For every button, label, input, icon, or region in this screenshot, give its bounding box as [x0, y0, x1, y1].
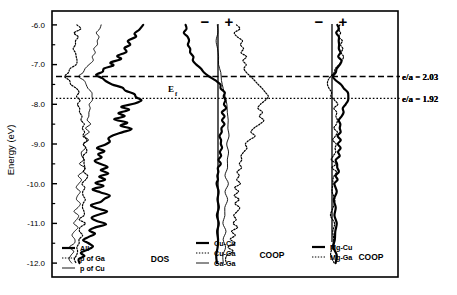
y-tick-label: -10.0 — [27, 180, 46, 189]
y-tick-label: -9.0 — [31, 140, 45, 149]
legend-label-cu-ga: Cu-Ga — [214, 249, 237, 258]
panel-title-dos: DOS — [151, 254, 170, 264]
y-axis-label: Energy (eV) — [5, 125, 16, 176]
sign-coop1-positive: + — [225, 13, 234, 30]
dos-coop-figure: -6.0-7.0-8.0-9.0-10.0-11.0-12.0 e/a = 2.… — [0, 0, 457, 295]
y-tick-label: -6.0 — [31, 21, 45, 30]
legend-label-cu-cu: Cu-Cu — [214, 239, 236, 248]
legend-label-all: All — [80, 244, 89, 253]
panel-title-coop1: COOP — [259, 250, 284, 260]
y-axis-label-group: Energy (eV) — [5, 125, 16, 176]
ea-label-text-1: e/a = 1.92 — [402, 94, 439, 104]
sign-coop2-negative: − — [315, 13, 324, 30]
y-tick-label: -11.0 — [27, 219, 45, 228]
legend-label-p-of-cu: p of Cu — [80, 264, 105, 273]
fermi-level-text: E — [168, 84, 174, 94]
legend-label-p-of-ga: p of Ga — [80, 254, 106, 263]
legend-label-ga-ga: Ga-Ga — [214, 259, 237, 268]
panel-title-coop2: COOP — [358, 252, 383, 262]
sign-coop2-positive: + — [339, 13, 348, 30]
legend-label-mg-cu: Mg-Cu — [330, 243, 352, 252]
y-tick-label: -7.0 — [31, 60, 45, 69]
y-tick-label: -12.0 — [27, 259, 46, 268]
ea-label-text-0: e/a = 2.03 — [402, 72, 439, 82]
sign-coop1-negative: − — [201, 13, 210, 30]
plot-svg: -6.0-7.0-8.0-9.0-10.0-11.0-12.0 e/a = 2.… — [0, 0, 457, 295]
y-tick-label: -8.0 — [31, 100, 45, 109]
legend-label-mg-ga: Mg-Ga — [330, 253, 353, 262]
